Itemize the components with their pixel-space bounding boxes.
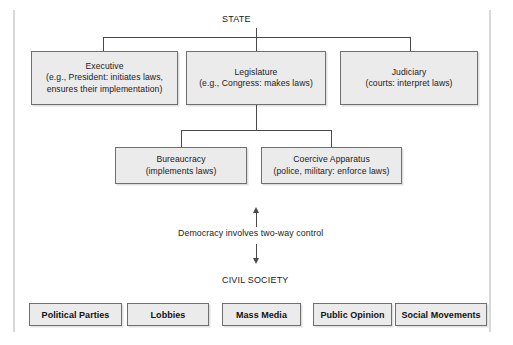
node-executive-line-1: Executive	[36, 61, 173, 72]
frame-rule-left	[13, 10, 15, 332]
connector-drop-legislature	[256, 37, 257, 51]
node-bureaucracy-line-2: (implements laws)	[120, 166, 242, 177]
frame-rule-right	[489, 10, 491, 332]
node-bureaucracy-line-1: Bureaucracy	[120, 154, 242, 165]
node-legislature-line-1: Legislature	[191, 67, 321, 78]
connector-drop-bureaucracy	[181, 130, 182, 147]
connector-state-stem	[256, 28, 257, 37]
node-executive-line-2: (e.g., President: initiates laws,	[36, 72, 173, 83]
two-way-control-caption: Democracy involves two-way control	[178, 228, 323, 238]
node-coercive-apparatus-line-1: Coercive Apparatus	[266, 154, 397, 165]
chip-public-opinion[interactable]: Public Opinion	[313, 303, 392, 326]
node-judiciary[interactable]: Judiciary (courts: interpret laws)	[340, 51, 478, 105]
node-legislature[interactable]: Legislature (e.g., Congress: makes laws)	[186, 51, 326, 105]
connector-top-bar	[103, 37, 411, 38]
node-executive-line-3: ensures their implementation)	[36, 84, 173, 95]
connector-legislature-stem	[256, 105, 257, 130]
node-legislature-line-2: (e.g., Congress: makes laws)	[191, 78, 321, 89]
chip-lobbies-label: Lobbies	[151, 310, 186, 320]
chip-mass-media[interactable]: Mass Media	[222, 303, 301, 326]
arrow-down-icon	[253, 258, 259, 264]
chip-political-parties-label: Political Parties	[42, 310, 110, 320]
chip-political-parties[interactable]: Political Parties	[29, 303, 122, 326]
chip-public-opinion-label: Public Opinion	[320, 310, 384, 320]
chip-social-movements-label: Social Movements	[401, 310, 480, 320]
connector-sub-bar	[181, 130, 332, 131]
node-bureaucracy[interactable]: Bureaucracy (implements laws)	[115, 147, 247, 184]
chip-social-movements[interactable]: Social Movements	[395, 303, 487, 326]
connector-drop-executive	[103, 37, 104, 51]
node-coercive-apparatus-line-2: (police, military: enforce laws)	[266, 166, 397, 177]
node-judiciary-line-2: (courts: interpret laws)	[345, 78, 473, 89]
node-coercive-apparatus[interactable]: Coercive Apparatus (police, military: en…	[261, 147, 402, 184]
diagram-canvas: STATE Executive (e.g., President: initia…	[0, 0, 513, 345]
chip-mass-media-label: Mass Media	[236, 310, 287, 320]
connector-arrow-down-shaft	[256, 244, 257, 258]
node-judiciary-line-1: Judiciary	[345, 67, 473, 78]
connector-arrow-up-shaft	[256, 213, 257, 227]
chip-lobbies[interactable]: Lobbies	[127, 303, 209, 326]
node-executive[interactable]: Executive (e.g., President: initiates la…	[31, 51, 178, 105]
civil-society-heading: CIVIL SOCIETY	[222, 275, 289, 285]
connector-drop-judiciary	[410, 37, 411, 51]
connector-drop-coercive-apparatus	[331, 130, 332, 147]
state-root-label: STATE	[222, 14, 251, 24]
